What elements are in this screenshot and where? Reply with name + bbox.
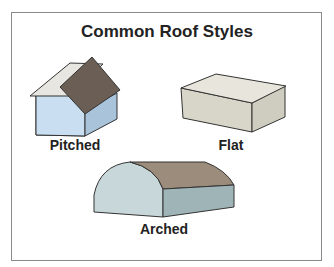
arched-roof-building <box>94 162 234 217</box>
flat-roof-building <box>181 74 286 132</box>
label-pitched: Pitched <box>25 137 125 153</box>
label-arched: Arched <box>114 221 214 237</box>
pitched-roof-house <box>30 57 120 136</box>
label-flat: Flat <box>181 137 281 153</box>
